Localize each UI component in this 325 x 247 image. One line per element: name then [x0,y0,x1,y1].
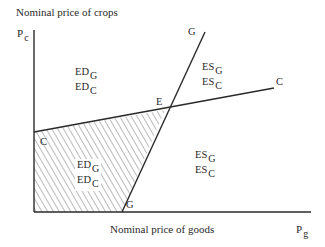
y-axis-symbol: Pc [17,28,29,39]
g-line-label-top: G [188,27,196,38]
c-line-label-start: C [40,137,47,148]
x-axis-title: Nominal price of goods [110,224,214,235]
x-axis-symbol: Pg [296,224,308,235]
equilibrium-label: E [156,97,162,108]
region-upper-right-label: ESG ESC [202,62,223,92]
diagram-canvas [0,0,325,247]
region-lower-right-label: ESG ESC [195,150,216,180]
y-axis-title: Nominal price of crops [16,7,118,18]
region-upper-left-label: EDG EDC [75,67,97,97]
c-line-label-end: C [276,77,283,88]
g-line-label-bottom: G [126,200,134,211]
region-lower-left-label: EDG EDC [75,159,101,191]
